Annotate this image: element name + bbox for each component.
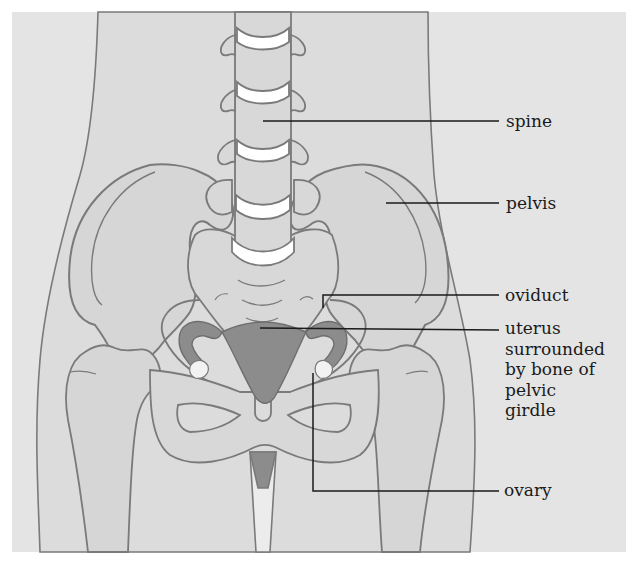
label-uterus-line5: girdle xyxy=(505,400,635,421)
label-uterus-line3: by bone of xyxy=(505,359,635,380)
label-spine: spine xyxy=(506,111,552,131)
label-uterus-line2: surrounded xyxy=(505,339,635,360)
label-uterus-line4: pelvic xyxy=(505,380,635,401)
label-oviduct: oviduct xyxy=(505,285,568,305)
label-uterus: uterus surrounded by bone of pelvic gird… xyxy=(505,318,635,421)
label-uterus-line1: uterus xyxy=(505,318,635,339)
label-pelvis: pelvis xyxy=(506,193,556,213)
label-ovary: ovary xyxy=(504,480,552,500)
